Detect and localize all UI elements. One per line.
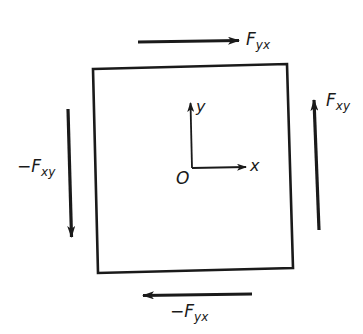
origin-label: O <box>176 170 189 187</box>
sign: − <box>17 156 31 176</box>
x-axis-label: x <box>250 158 259 174</box>
y-axis-label: y <box>196 99 205 115</box>
subscript: yx <box>256 38 270 52</box>
force-label-right: Fxy <box>326 92 350 112</box>
force-arrow-left <box>68 109 72 237</box>
force-symbol: F <box>184 301 194 321</box>
force-arrow-right <box>314 100 319 230</box>
subscript: xy <box>336 99 350 113</box>
force-label-top: Fyx <box>246 31 270 51</box>
force-symbol: F <box>31 156 41 176</box>
x-axis-arrow <box>192 167 246 168</box>
force-arrow-bottom <box>143 294 252 296</box>
force-label-bottom: −Fyx <box>170 303 208 323</box>
subscript: xy <box>41 165 55 179</box>
force-label-left: −Fxy <box>17 158 55 178</box>
force-symbol: F <box>246 29 256 49</box>
force-arrow-top <box>138 41 239 43</box>
y-axis-arrow <box>191 103 193 168</box>
subscript: yx <box>194 310 208 324</box>
force-symbol: F <box>326 90 336 110</box>
sign: − <box>170 301 184 321</box>
